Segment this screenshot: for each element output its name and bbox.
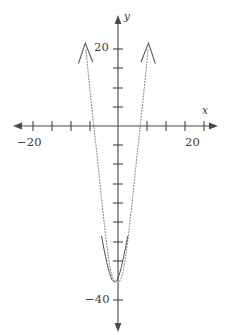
x-tick-label-pos-20: 20 xyxy=(185,137,200,149)
graph-figure: x y −20 20 20 −40 xyxy=(0,0,231,335)
parabola-right-branch xyxy=(120,50,148,281)
y-tick-label-neg-40: −40 xyxy=(85,294,110,306)
x-tick-label-neg-20: −20 xyxy=(17,137,42,149)
y-axis-label: y xyxy=(124,11,130,22)
parabola-left-branch xyxy=(86,50,114,281)
y-axis-top-arrow-icon xyxy=(115,15,122,24)
parabola-left-arrow-icon xyxy=(79,43,93,64)
parabola-plot-svg xyxy=(0,0,231,335)
x-axis-left-arrow-icon xyxy=(13,123,22,130)
y-axis-bottom-arrow-icon xyxy=(115,323,122,332)
y-tick-label-pos-20: 20 xyxy=(94,42,109,54)
parabola-vertex-solid xyxy=(102,236,128,282)
x-axis-label: x xyxy=(202,105,208,116)
x-axis-right-arrow-icon xyxy=(209,123,218,130)
